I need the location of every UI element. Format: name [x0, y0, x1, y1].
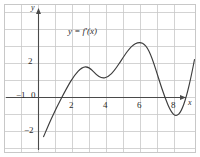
grid-vertical-lines: [22, 5, 175, 152]
x-tick-label-minus1: −1: [16, 91, 26, 100]
x-tick-label-0: 0: [31, 91, 36, 100]
derivative-graph-figure: y x y = f′(x) −1 0 2 4 6 8 2 −2: [0, 0, 200, 157]
derivative-curve: [44, 43, 195, 137]
x-tick-label-6: 6: [137, 101, 142, 110]
y-axis-arrowhead: [36, 8, 41, 14]
x-tick-label-4: 4: [103, 101, 108, 110]
curve-equation-label: y = f′(x): [68, 27, 97, 36]
x-tick-label-2: 2: [69, 101, 74, 110]
y-tick-label-2: 2: [28, 57, 33, 66]
y-axis-label: y: [31, 4, 35, 12]
x-axis-label: x: [188, 99, 192, 107]
y-tick-label-minus2: −2: [24, 126, 34, 135]
x-tick-label-8: 8: [171, 101, 176, 110]
